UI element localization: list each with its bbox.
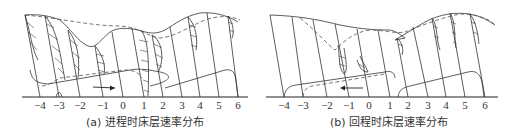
tick-label: −3 (297, 99, 309, 111)
tick-label: 3 (425, 99, 431, 111)
tick-label: 6 (482, 99, 488, 111)
panel-b-diagram (266, 13, 498, 97)
panel-b-dashed-profile (300, 14, 494, 50)
tick-label: 4 (197, 99, 203, 111)
tick-label: 4 (443, 99, 449, 111)
tick-label: 0 (366, 99, 372, 111)
panel-a-diagram (22, 13, 248, 97)
panel-b-bed-surface (270, 13, 495, 40)
tick-label: −4 (34, 99, 46, 111)
panel-b-dashed-lower (303, 74, 385, 97)
tick-label: −1 (343, 99, 355, 111)
tick-label: 0 (120, 99, 126, 111)
panel-b-caption: (b) 回程时床层速率分布 (330, 113, 448, 129)
panel-a-bed-surface (25, 13, 238, 47)
panel-b-plate-lower (284, 71, 484, 97)
tick-label: 1 (387, 99, 393, 111)
tick-label: −3 (53, 99, 65, 111)
panel-b-hatching (338, 13, 479, 74)
panel-a-tick-labels: −4 −3 −2 −1 0 1 2 3 4 5 6 (34, 99, 241, 111)
tick-label: 5 (216, 99, 222, 111)
panel-a-plate-lower (30, 69, 238, 97)
tick-label: −1 (97, 99, 109, 111)
panel-b-tick-labels: −4 −3 −2 −1 0 1 2 3 4 5 6 (278, 99, 488, 111)
tick-label: 6 (235, 99, 241, 111)
panel-a-caption: (a) 进程时床层速率分布 (86, 113, 204, 129)
panel-a-direction-arrow-icon (93, 86, 115, 91)
tick-label: −2 (321, 99, 333, 111)
tick-label: 2 (160, 99, 166, 111)
tick-label: 3 (179, 99, 185, 111)
tick-label: 2 (405, 99, 411, 111)
panel-a-velocity-lines (25, 13, 238, 97)
tick-label: −2 (74, 99, 86, 111)
tick-label: 5 (462, 99, 468, 111)
panel-b-direction-arrow-icon (340, 86, 363, 91)
tick-label: 1 (141, 99, 147, 111)
tick-label: −4 (278, 99, 290, 111)
